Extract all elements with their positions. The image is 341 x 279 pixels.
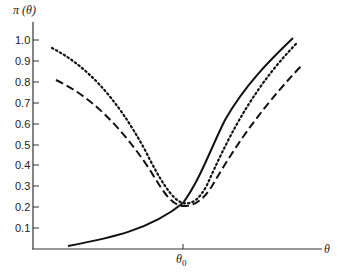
- svg-text:0.7: 0.7: [15, 97, 30, 109]
- svg-text:0.5: 0.5: [15, 139, 30, 151]
- y-tick-labels: 1.0 0.9 0.8 0.7 0.6 0.5 0.4 0.3 0.2 0.1: [15, 34, 30, 234]
- svg-text:0.4: 0.4: [15, 159, 30, 171]
- x-axis-label: θ: [324, 242, 330, 256]
- svg-text:0.1: 0.1: [15, 222, 30, 234]
- power-function-chart: π (θ) 1.0 0.9 0.8 0.7 0.6 0.5 0.4 0.3 0.…: [0, 0, 341, 279]
- dotted-curve: [52, 42, 298, 203]
- svg-text:0.8: 0.8: [15, 76, 30, 88]
- svg-text:0.9: 0.9: [15, 55, 30, 67]
- svg-text:0.3: 0.3: [15, 180, 30, 192]
- solid-curve: [68, 38, 293, 246]
- y-axis-label: π (θ): [13, 3, 36, 17]
- y-ticks: [33, 40, 39, 228]
- dashed-curve: [56, 65, 302, 206]
- svg-text:1.0: 1.0: [15, 34, 30, 46]
- svg-text:0.6: 0.6: [15, 118, 30, 130]
- theta0-label: θ0: [176, 252, 187, 268]
- svg-text:0.2: 0.2: [15, 201, 30, 213]
